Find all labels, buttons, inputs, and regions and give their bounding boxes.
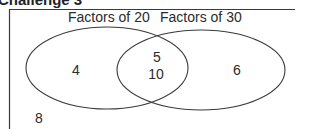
value-only-30: 6 bbox=[233, 63, 241, 77]
value-intersection-2: 10 bbox=[146, 67, 166, 81]
set-label-factors-of-20: Factors of 20 bbox=[68, 10, 150, 24]
set-label-factors-of-30: Factors of 30 bbox=[160, 10, 242, 24]
value-intersection-1: 5 bbox=[150, 50, 164, 64]
value-outside: 8 bbox=[35, 111, 43, 125]
set-ellipse-factors-of-30 bbox=[117, 30, 285, 110]
value-only-20: 4 bbox=[72, 63, 80, 77]
